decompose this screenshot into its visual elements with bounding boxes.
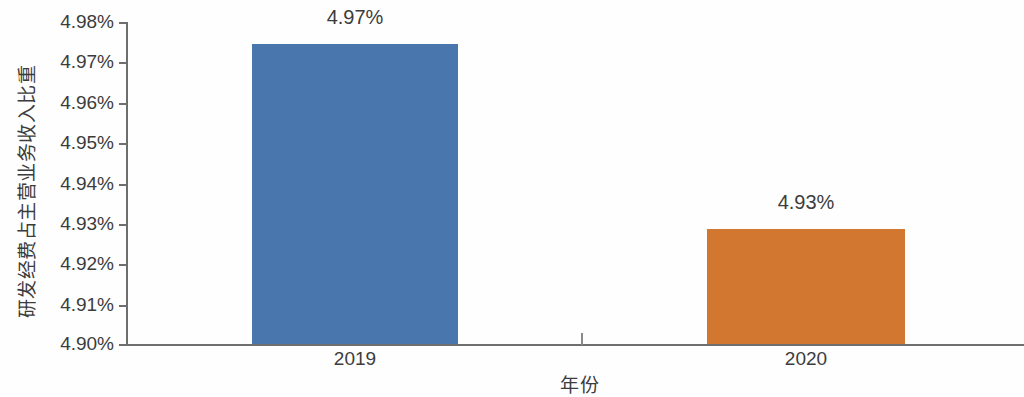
x-axis-line bbox=[126, 344, 1024, 346]
y-axis-tick bbox=[119, 62, 127, 64]
x-axis-title: 年份 bbox=[500, 370, 660, 397]
bar-2020[interactable] bbox=[707, 229, 905, 345]
y-axis-tick bbox=[119, 264, 127, 266]
y-axis-label: 4.91% bbox=[14, 294, 114, 316]
bar-2019[interactable] bbox=[252, 44, 458, 345]
y-axis-tick bbox=[119, 184, 127, 186]
y-axis-tick bbox=[119, 143, 127, 145]
y-axis-label: 4.90% bbox=[14, 333, 114, 355]
y-axis-label: 4.96% bbox=[14, 92, 114, 114]
bar-value-label-2019: 4.97% bbox=[265, 6, 445, 29]
bar-fill bbox=[252, 44, 458, 345]
y-axis-label: 4.95% bbox=[14, 132, 114, 154]
y-axis-label: 4.93% bbox=[14, 213, 114, 235]
y-axis-label: 4.97% bbox=[14, 51, 114, 73]
x-axis-label-2019: 2019 bbox=[275, 348, 435, 370]
y-axis-tick bbox=[119, 224, 127, 226]
y-axis-tick bbox=[119, 103, 127, 105]
x-axis-label-2020: 2020 bbox=[726, 348, 886, 370]
y-axis-label: 4.98% bbox=[14, 11, 114, 33]
y-axis-tick bbox=[119, 305, 127, 307]
bar-fill bbox=[707, 229, 905, 345]
y-axis-tick bbox=[119, 22, 127, 24]
bar-value-label-2020: 4.93% bbox=[716, 191, 896, 214]
y-axis-label: 4.94% bbox=[14, 173, 114, 195]
x-axis-tick bbox=[581, 333, 583, 345]
y-axis-label: 4.92% bbox=[14, 253, 114, 275]
